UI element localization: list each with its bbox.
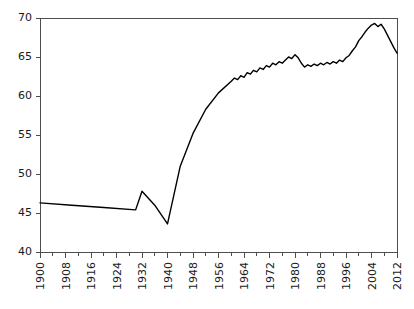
- y-tick-label: 55: [18, 128, 32, 141]
- x-tick-label: 1948: [187, 262, 200, 290]
- y-tick-label: 50: [18, 167, 32, 180]
- x-tick-label: 1980: [289, 262, 302, 290]
- x-tick-label: 1956: [213, 262, 226, 290]
- x-tick-label: 1932: [136, 262, 149, 290]
- x-tick-label: 2012: [391, 262, 404, 290]
- x-tick-label: 1988: [315, 262, 328, 290]
- x-tick-label: 1964: [238, 262, 251, 290]
- line-chart: 40455055606570 1900190819161924193219401…: [0, 0, 414, 309]
- x-tick-label: 1996: [340, 262, 353, 290]
- y-tick-label: 65: [18, 50, 32, 63]
- x-tick-label: 1924: [111, 262, 124, 290]
- x-tick-label: 1940: [162, 262, 175, 290]
- y-tick-label: 40: [18, 245, 32, 258]
- y-tick-label: 60: [18, 89, 32, 102]
- x-tick-label: 1900: [34, 262, 47, 290]
- x-tick-label: 2004: [366, 262, 379, 290]
- y-tick-label: 45: [18, 206, 32, 219]
- x-tick-label: 1916: [85, 262, 98, 290]
- x-tick-label: 1972: [264, 262, 277, 290]
- x-tick-label: 1908: [60, 262, 73, 290]
- chart-container: 40455055606570 1900190819161924193219401…: [0, 0, 414, 309]
- y-tick-label: 70: [18, 11, 32, 24]
